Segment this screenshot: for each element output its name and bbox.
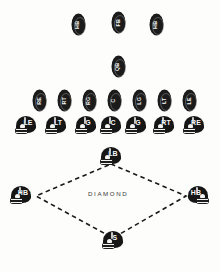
helmet-facemask [100, 159, 113, 166]
helmet-dline-rt: RT [152, 116, 176, 137]
helmet-dline-le: LE [14, 116, 38, 137]
diamond-text-label: DIAMOND [88, 190, 128, 197]
helmet-safety: S [101, 231, 125, 252]
marker-backfield-hb-left: HB [72, 14, 85, 35]
helmet-dline-re: RE [182, 116, 206, 137]
helmet-facemask [183, 128, 196, 135]
marker-oline-re: RE [33, 90, 46, 111]
helmet-label: S [101, 234, 125, 241]
marker-label: LG [137, 97, 143, 105]
marker-oline-lg: LG [133, 90, 146, 111]
marker-label: RE [37, 97, 43, 105]
helmet-linebacker: LB [99, 147, 123, 168]
marker-label: HB [154, 20, 160, 28]
marker-label: LT [162, 97, 168, 104]
helmet-dline-guard-left: G [74, 116, 98, 137]
marker-label: HB [76, 20, 82, 28]
marker-label: FB [116, 19, 122, 27]
marker-backfield-hb-right: HB [150, 14, 163, 35]
helmet-dline-lt: LT [44, 116, 68, 137]
helmet-label: LB [99, 150, 123, 157]
helmet-facemask [153, 128, 166, 135]
helmet-label: G [74, 119, 98, 126]
helmet-facemask [125, 128, 138, 135]
helmet-label: LE [14, 119, 38, 126]
helmet-facemask [75, 128, 88, 135]
marker-oline-lt: LT [158, 90, 171, 111]
marker-label: QB [116, 62, 122, 71]
helmet-facemask [10, 198, 23, 205]
helmet-label: RT [152, 119, 176, 126]
marker-label: RT [62, 97, 68, 105]
marker-label: LE [187, 97, 193, 104]
marker-oline-rt: RT [58, 90, 71, 111]
helmet-facemask [45, 128, 58, 135]
marker-label: C [112, 98, 118, 102]
marker-quarterback: QB [112, 56, 125, 77]
helmet-label: HB [186, 189, 210, 196]
helmet-halfback-right: HB [186, 186, 210, 207]
helmet-halfback-left: HB [9, 186, 33, 207]
marker-oline-rg: RG [83, 90, 96, 111]
helmet-dline-guard-right: G [124, 116, 148, 137]
helmet-facemask [196, 198, 209, 205]
marker-oline-c: C [108, 90, 121, 111]
helmet-label: RE [182, 119, 206, 126]
helmet-facemask [100, 128, 113, 135]
helmet-label: HB [9, 189, 33, 196]
helmet-label: C [99, 119, 123, 126]
football-formation-diagram: HB FB HB QB RE RT RG C LG LT LE LE [0, 0, 220, 272]
marker-oline-le: LE [183, 90, 196, 111]
marker-backfield-fb: FB [112, 12, 125, 33]
helmet-label: LT [44, 119, 68, 126]
helmet-dline-center: C [99, 116, 123, 137]
helmet-facemask [15, 128, 28, 135]
helmet-facemask [102, 243, 115, 250]
marker-label: RG [87, 96, 93, 105]
diamond-polygon [36, 164, 186, 238]
helmet-label: G [124, 119, 148, 126]
